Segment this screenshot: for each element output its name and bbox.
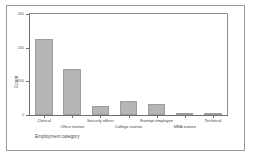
x-axis-tick-label: College trainee (115, 124, 142, 129)
x-axis-tick (185, 115, 186, 118)
y-axis-tick-label: 300 (18, 11, 24, 16)
bar (63, 69, 80, 115)
bar (176, 113, 193, 115)
x-axis-tick (72, 115, 73, 118)
bar (204, 113, 221, 115)
bar (120, 101, 137, 115)
y-axis-tick: 0 (26, 115, 30, 116)
x-axis-tick (129, 115, 130, 118)
x-axis-title: Employment category (35, 134, 79, 140)
x-axis-tick-label: Exempt employee (140, 118, 173, 123)
x-axis-tick-label: Security officer (87, 118, 114, 123)
bar (92, 106, 109, 115)
x-axis-tick-label: Technical (204, 118, 221, 123)
y-axis-title: Count (14, 76, 20, 88)
bar (35, 39, 52, 115)
y-axis-tick-label: 0 (22, 112, 24, 117)
x-axis-tick-label: MBA trainee (174, 124, 196, 129)
bar (148, 104, 165, 115)
x-axis-tick-label: Clerical (37, 118, 51, 123)
y-axis-tick-label: 200 (18, 45, 24, 50)
bar-series (30, 14, 227, 115)
chart-screenshot: 0100200300 ClericalOffice traineeSecurit… (0, 0, 254, 157)
x-axis-tick-label: Office trainee (60, 124, 84, 129)
